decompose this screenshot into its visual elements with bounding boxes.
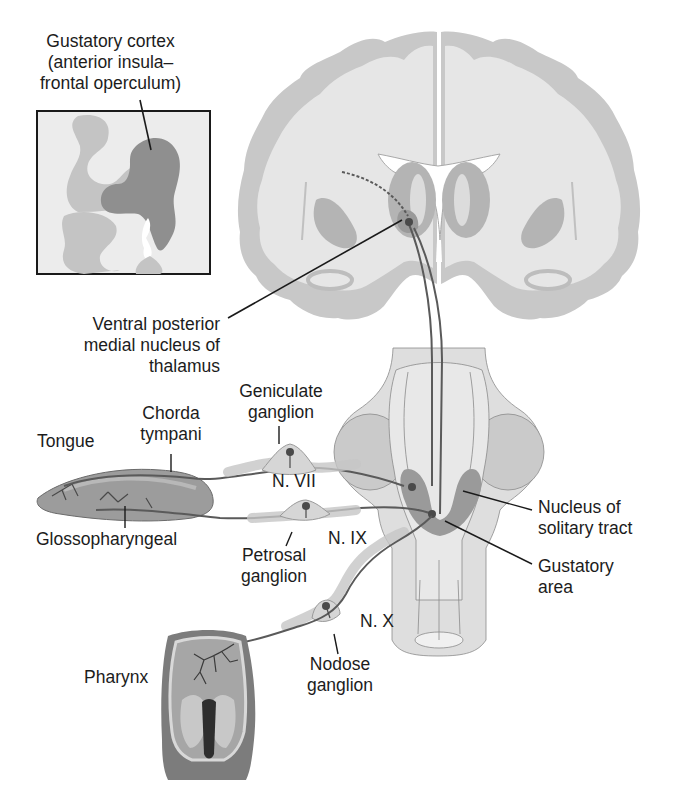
label-line: N. X [360,611,394,632]
label-line: Gustatory [538,556,614,577]
nodose-leader [334,634,338,654]
label-geniculate-ganglion: Geniculate ganglion [226,381,336,423]
label-petrosal-ganglion: Petrosal ganglion [232,545,316,587]
label-line: thalamus [55,356,220,377]
label-line: solitary tract [538,518,632,539]
label-vpm-thalamus: Ventral posterior medial nucleus of thal… [55,314,220,377]
label-line: Pharynx [84,667,148,688]
petrosal-leader [286,532,292,546]
third-ventricle [436,240,442,262]
label-line: Petrosal [232,545,316,566]
label-line: area [538,577,614,598]
label-line: tympani [131,424,211,445]
label-nodose-ganglion: Nodose ganglion [300,654,380,696]
laryngeal-opening [202,699,216,759]
cortex-inset [37,100,210,274]
label-n-ix: N. IX [328,528,367,549]
label-line: Chorda [131,403,211,424]
label-n-x: N. X [360,611,394,632]
vpm-neuron-soma [405,218,413,226]
label-line: ganglion [232,566,316,587]
label-line: (anterior insula– [40,52,181,73]
label-line: Nodose [300,654,380,675]
internal-nucleus-right [454,174,470,226]
label-line: Geniculate [226,381,336,402]
label-line: N. VII [272,471,316,492]
label-line: Gustatory cortex [40,31,181,52]
label-pharynx: Pharynx [84,667,148,688]
label-line: N. IX [328,528,367,549]
label-nucleus-solitary-tract: Nucleus of solitary tract [538,497,632,539]
label-gustatory-area: Gustatory area [538,556,614,598]
label-line: medial nucleus of [55,335,220,356]
label-glossopharyngeal: Glossopharyngeal [36,529,177,550]
label-gustatory-cortex: Gustatory cortex (anterior insula– front… [40,31,181,94]
label-chorda-tympani: Chorda tympani [131,403,211,445]
label-tongue: Tongue [37,431,94,452]
label-line: Glossopharyngeal [36,529,177,550]
label-line: Ventral posterior [55,314,220,335]
brainstem [334,348,544,656]
label-line: Nucleus of [538,497,632,518]
label-line: ganglion [226,402,336,423]
label-n-vii: N. VII [272,471,316,492]
coronal-brain-section [238,32,640,320]
label-line: Tongue [37,431,94,452]
pharynx [161,630,255,780]
label-line: ganglion [300,675,380,696]
nts-neuron-vii [408,483,416,491]
label-line: frontal operculum) [40,73,181,94]
